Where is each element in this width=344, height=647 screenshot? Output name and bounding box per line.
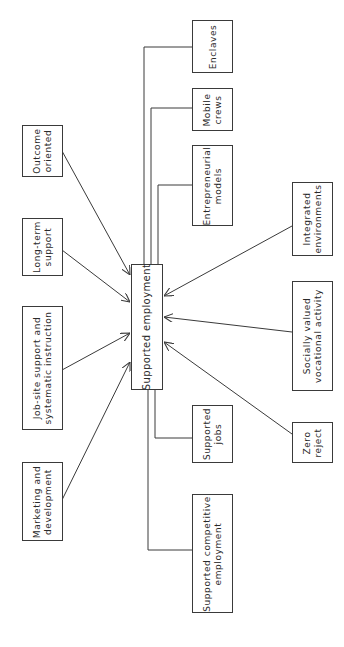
box-zero-reject: Zero reject [292, 422, 333, 463]
box-outcome-oriented: Outcome oriented [22, 125, 63, 177]
label-outcome-oriented: Outcome oriented [32, 128, 54, 173]
connector-entrepreneurial [158, 185, 192, 264]
arrow-marketing-development [62, 362, 130, 500]
arrow-job-site-support [62, 333, 130, 370]
label-supported-competitive-employment: Supported competitive employment [202, 496, 224, 612]
box-socially-valued-vocational-activity: Socially valued vocational activity [292, 281, 333, 391]
box-long-term-support: Long-term support [22, 218, 63, 276]
box-enclaves: Enclaves [192, 20, 233, 73]
box-entrepreneurial-models: Entrepreneurial models [192, 145, 233, 226]
arrow-integrated-environments [164, 226, 292, 296]
arrow-long-term-support [62, 250, 130, 302]
center-label: Supported employment [141, 264, 153, 390]
center-box-supported-employment: Supported employment [131, 264, 163, 390]
label-socially-valued-vocational-activity: Socially valued vocational activity [302, 289, 324, 383]
label-marketing-development: Marketing and development [32, 465, 54, 537]
box-job-site-support: Job-site support and systematic instruct… [22, 306, 63, 430]
label-job-site-support: Job-site support and systematic instruct… [32, 311, 54, 424]
label-long-term-support: Long-term support [32, 221, 54, 273]
arrow-outcome-oriented [62, 151, 130, 275]
box-mobile-crews: Mobile crews [192, 88, 233, 131]
connector-mobile-crews [151, 108, 192, 264]
arrow-socially-valued [164, 317, 292, 332]
box-marketing-development: Marketing and development [22, 462, 63, 541]
supported-employment-diagram: Supported employment Outcome oriented Lo… [0, 0, 344, 647]
label-entrepreneurial-models: Entrepreneurial models [202, 146, 224, 225]
label-integrated-environments: Integrated environments [302, 184, 324, 253]
box-supported-competitive-employment: Supported competitive employment [192, 494, 233, 613]
connector-supported-jobs [155, 390, 192, 438]
box-supported-jobs: Supported jobs [192, 405, 233, 463]
label-mobile-crews: Mobile crews [202, 93, 224, 126]
label-enclaves: Enclaves [207, 24, 218, 69]
label-supported-jobs: Supported jobs [202, 408, 224, 460]
label-zero-reject: Zero reject [302, 428, 324, 457]
box-integrated-environments: Integrated environments [292, 182, 333, 256]
